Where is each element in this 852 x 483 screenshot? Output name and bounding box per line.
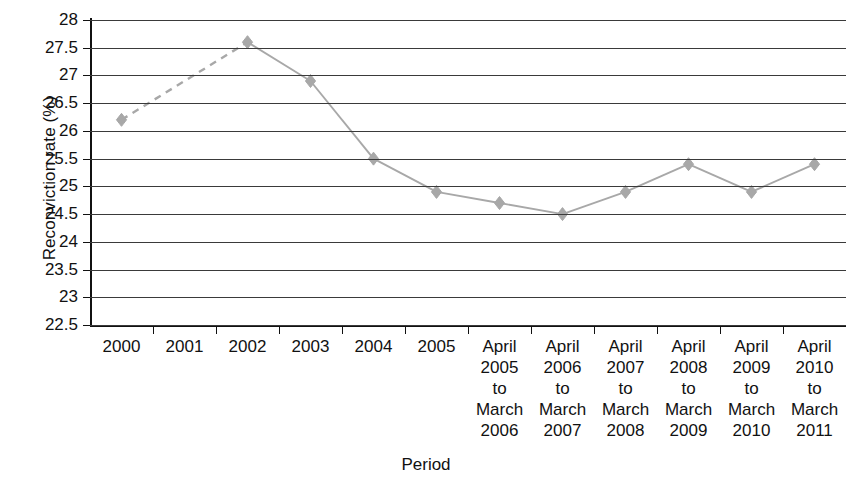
data-point-marker — [494, 197, 504, 210]
data-point-marker — [242, 36, 252, 49]
y-tick-label: 24 — [59, 233, 78, 250]
x-tick-label-line: 2009 — [720, 357, 783, 378]
x-tick-mark — [531, 326, 532, 334]
y-tick-label: 24.5 — [45, 205, 78, 222]
x-axis-tick-labels: 200020012002200320042005April2005toMarch… — [90, 336, 846, 454]
gridline — [90, 297, 846, 298]
x-tick-label: 2002 — [216, 336, 279, 357]
x-tick-label: 2003 — [279, 336, 342, 357]
x-tick-label-line: March — [720, 399, 783, 420]
x-tick-mark — [153, 326, 154, 334]
x-tick-label-line: 2001 — [153, 336, 216, 357]
y-tick-label: 25 — [59, 177, 78, 194]
y-tick-mark — [83, 297, 90, 298]
x-tick-label-line: 2005 — [405, 336, 468, 357]
y-tick-label: 27 — [59, 66, 78, 83]
series-segment — [311, 81, 374, 159]
x-tick-label-line: to — [531, 378, 594, 399]
x-tick-label: April2006toMarch2007 — [531, 336, 594, 441]
x-tick-label-line: 2009 — [657, 420, 720, 441]
x-tick-label-line: March — [468, 399, 531, 420]
x-tick-mark — [720, 326, 721, 334]
x-tick-label: April2010toMarch2011 — [783, 336, 846, 441]
x-tick-label: 2001 — [153, 336, 216, 357]
x-tick-label: April2005toMarch2006 — [468, 336, 531, 441]
plot-area — [90, 20, 846, 325]
y-tick-label: 26 — [59, 122, 78, 139]
x-tick-label-line: 2011 — [783, 420, 846, 441]
x-tick-label-line: 2006 — [531, 357, 594, 378]
series-segment — [437, 192, 500, 203]
x-tick-mark — [657, 326, 658, 334]
x-tick-mark — [405, 326, 406, 334]
x-tick-label: April2007toMarch2008 — [594, 336, 657, 441]
x-tick-label-line: 2000 — [90, 336, 153, 357]
series-segment-dashed — [122, 42, 248, 120]
y-tick-mark — [83, 48, 90, 49]
x-tick-label-line: 2008 — [594, 420, 657, 441]
gridline — [90, 131, 846, 132]
x-tick-label: 2004 — [342, 336, 405, 357]
x-tick-label-line: April — [594, 336, 657, 357]
gridline — [90, 20, 846, 21]
x-tick-label-line: April — [783, 336, 846, 357]
x-tick-label-line: to — [468, 378, 531, 399]
y-tick-label: 22.5 — [45, 316, 78, 333]
series-segment — [752, 164, 815, 192]
data-series-layer — [90, 20, 846, 325]
x-tick-label-line: to — [783, 378, 846, 399]
x-tick-label-line: 2003 — [279, 336, 342, 357]
x-tick-label-line: to — [594, 378, 657, 399]
x-axis-title: Period — [0, 455, 852, 475]
x-tick-label-line: March — [594, 399, 657, 420]
y-tick-mark — [83, 75, 90, 76]
y-tick-label: 23.5 — [45, 261, 78, 278]
y-tick-label: 25.5 — [45, 150, 78, 167]
y-tick-mark — [83, 270, 90, 271]
x-tick-label-line: March — [531, 399, 594, 420]
gridline — [90, 75, 846, 76]
y-tick-mark — [83, 186, 90, 187]
gridline — [90, 214, 846, 215]
x-tick-label-line: to — [657, 378, 720, 399]
y-tick-mark — [83, 20, 90, 21]
x-tick-label: 2005 — [405, 336, 468, 357]
y-tick-label: 28 — [59, 11, 78, 28]
gridline — [90, 159, 846, 160]
y-tick-mark — [83, 242, 90, 243]
gridline — [90, 242, 846, 243]
data-point-marker — [116, 113, 126, 126]
x-tick-label-line: 2006 — [468, 420, 531, 441]
x-tick-label-line: March — [783, 399, 846, 420]
x-tick-mark — [594, 326, 595, 334]
y-tick-mark — [83, 325, 90, 326]
y-tick-mark — [83, 159, 90, 160]
y-tick-mark — [83, 131, 90, 132]
x-tick-label-line: to — [720, 378, 783, 399]
series-segment — [689, 164, 752, 192]
x-tick-label-line: 2004 — [342, 336, 405, 357]
y-tick-label: 26.5 — [45, 94, 78, 111]
data-point-marker — [683, 158, 693, 171]
x-tick-label: April2008toMarch2009 — [657, 336, 720, 441]
x-tick-label-line: 2007 — [594, 357, 657, 378]
x-tick-label-line: 2007 — [531, 420, 594, 441]
x-tick-label-line: April — [720, 336, 783, 357]
x-tick-mark — [216, 326, 217, 334]
x-tick-label: April2009toMarch2010 — [720, 336, 783, 441]
y-axis-tick-labels: 2827.52726.52625.52524.52423.52322.5 — [0, 0, 84, 340]
gridline — [90, 103, 846, 104]
x-tick-label-line: March — [657, 399, 720, 420]
x-tick-label-line: 2010 — [783, 357, 846, 378]
series-segment — [563, 192, 626, 214]
x-tick-label-line: April — [468, 336, 531, 357]
gridline — [90, 48, 846, 49]
x-tick-mark — [342, 326, 343, 334]
y-tick-label: 23 — [59, 288, 78, 305]
x-tick-mark — [279, 326, 280, 334]
y-tick-mark — [83, 103, 90, 104]
x-tick-label-line: April — [657, 336, 720, 357]
x-tick-mark — [783, 326, 784, 334]
gridline — [90, 270, 846, 271]
x-tick-label-line: 2005 — [468, 357, 531, 378]
